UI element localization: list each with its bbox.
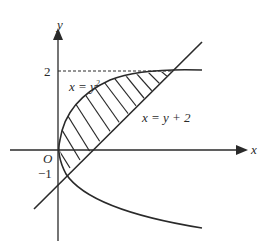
- y-tick-minus-1: −1: [38, 167, 52, 180]
- origin-label: O: [43, 152, 52, 165]
- parabola-label: x = y2: [69, 80, 100, 93]
- parabola-label-exponent: 2: [96, 79, 100, 88]
- x-axis-label: x: [251, 143, 257, 156]
- diagram-svg: [0, 0, 262, 241]
- line-curve: [34, 42, 202, 209]
- x-axis-arrow-icon: [236, 145, 248, 155]
- diagram-canvas: y x O 2 −1 x = y2 x = y + 2: [0, 0, 262, 241]
- parabola-label-text: x = y: [69, 79, 96, 94]
- y-tick-2: 2: [44, 65, 51, 78]
- line-label: x = y + 2: [142, 111, 191, 124]
- y-axis-label: y: [57, 18, 63, 31]
